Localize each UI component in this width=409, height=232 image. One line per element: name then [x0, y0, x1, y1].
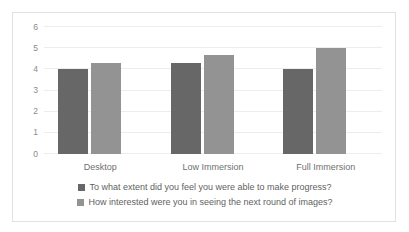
y-axis-tick-label: 3 [33, 86, 38, 95]
x-axis-category-label: Full Immersion [269, 159, 382, 175]
bars-layer [44, 27, 382, 154]
y-axis-tick-label: 2 [33, 107, 38, 116]
x-axis-category-label: Low Immersion [157, 159, 270, 175]
plot-area: 0123456 [44, 27, 382, 154]
y-axis-tick-label: 6 [33, 23, 38, 32]
legend-entry[interactable]: How interested were you in seeing the ne… [77, 196, 332, 208]
bar[interactable] [316, 48, 346, 154]
legend-label: How interested were you in seeing the ne… [88, 196, 332, 208]
x-axis-category-label: Desktop [44, 159, 157, 175]
bar[interactable] [204, 55, 234, 154]
legend-label: To what extent did you feel you were abl… [89, 181, 331, 193]
bar[interactable] [283, 69, 313, 154]
y-axis-tick-label: 5 [33, 44, 38, 53]
bar[interactable] [171, 63, 201, 154]
legend-swatch-icon [78, 184, 85, 191]
bar-group [157, 27, 270, 154]
bar[interactable] [91, 63, 121, 154]
legend-swatch-icon [77, 199, 84, 206]
chart-frame: 0123456 DesktopLow ImmersionFull Immersi… [12, 12, 396, 222]
legend-entry[interactable]: To what extent did you feel you were abl… [78, 181, 331, 193]
bar[interactable] [58, 69, 88, 154]
y-axis-tick-label: 4 [33, 65, 38, 74]
x-axis-category-labels: DesktopLow ImmersionFull Immersion [44, 159, 382, 175]
chart-legend: To what extent did you feel you were abl… [13, 181, 397, 208]
y-axis-tick-label: 1 [33, 129, 38, 138]
bar-group [44, 27, 157, 154]
bar-group [269, 27, 382, 154]
y-axis-tick-label: 0 [33, 150, 38, 159]
